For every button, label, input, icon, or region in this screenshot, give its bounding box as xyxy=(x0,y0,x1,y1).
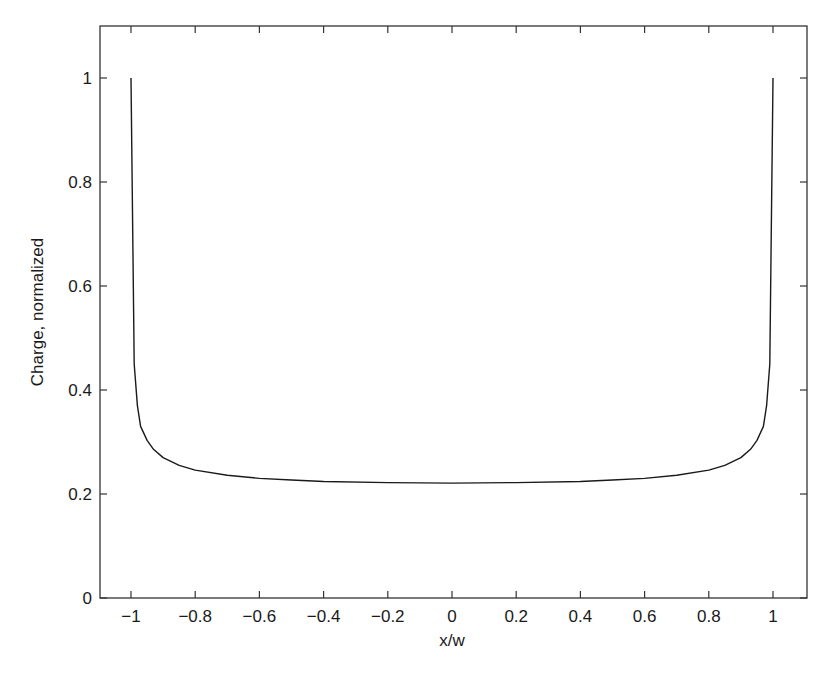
x-tick-label: 0.8 xyxy=(697,607,721,626)
y-tick-label: 0 xyxy=(83,589,92,608)
x-tick-label: −0.6 xyxy=(243,607,277,626)
y-tick-label: 0.4 xyxy=(68,381,92,400)
y-tick-label: 1 xyxy=(83,69,92,88)
x-tick-label: 0.4 xyxy=(569,607,593,626)
plot-frame xyxy=(100,26,807,598)
x-axis-ticks: −1−0.8−0.6−0.4−0.200.20.40.60.81 xyxy=(121,26,777,626)
x-tick-label: 1 xyxy=(768,607,777,626)
x-tick-label: −0.2 xyxy=(371,607,405,626)
x-tick-label: −0.8 xyxy=(178,607,212,626)
y-tick-label: 0.6 xyxy=(68,277,92,296)
chart-canvas: −1−0.8−0.6−0.4−0.200.20.40.60.81 00.20.4… xyxy=(0,0,835,680)
x-axis-label: x/w xyxy=(439,631,465,650)
x-tick-label: −1 xyxy=(121,607,140,626)
charge-curve xyxy=(131,78,773,483)
y-axis-ticks: 00.20.40.60.81 xyxy=(68,69,807,608)
x-tick-label: 0.6 xyxy=(633,607,657,626)
x-tick-label: 0 xyxy=(447,607,456,626)
y-tick-label: 0.2 xyxy=(68,485,92,504)
x-tick-label: 0.2 xyxy=(504,607,528,626)
y-axis-label: Charge, normalized xyxy=(28,238,47,386)
x-tick-label: −0.4 xyxy=(307,607,341,626)
y-tick-label: 0.8 xyxy=(68,173,92,192)
